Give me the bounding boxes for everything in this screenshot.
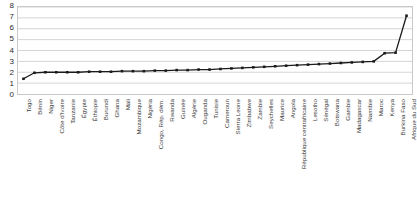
x-axis-tick-label: Maurice xyxy=(278,97,285,198)
x-axis-tick-label: Botswana xyxy=(333,97,340,198)
y-axis-tick-label: 7 xyxy=(10,13,14,21)
data-point-marker xyxy=(33,72,36,75)
data-point-marker xyxy=(208,68,211,71)
x-axis-tick-label: Côte d'Ivoire xyxy=(58,97,65,198)
x-axis-tick-label: Maroc xyxy=(377,97,384,198)
data-point-marker xyxy=(351,61,354,64)
x-axis-tick-label: Kenya xyxy=(388,97,395,198)
data-series-line xyxy=(18,7,412,94)
data-point-marker xyxy=(340,62,343,65)
x-axis-tick-label: Congo, Rép. dém. xyxy=(157,97,164,198)
x-axis-tick-label: Angola xyxy=(289,97,296,198)
data-point-marker xyxy=(175,69,178,72)
x-axis-tick-label: Zambie xyxy=(256,97,263,198)
y-axis: 012345678 xyxy=(0,0,17,101)
data-point-marker xyxy=(197,68,200,71)
x-axis-tick-label: Lesotho xyxy=(311,97,318,198)
data-point-marker xyxy=(99,70,102,73)
x-axis-tick-label: Burkina Faso xyxy=(399,97,406,198)
x-axis-tick-label: Bénin xyxy=(36,97,43,198)
data-point-marker xyxy=(329,62,332,65)
data-point-marker xyxy=(252,66,255,69)
x-axis-tick-label: Sierra Leone xyxy=(234,97,241,198)
plot-area xyxy=(17,6,413,95)
x-axis-tick-label: Afrique du Sud xyxy=(410,97,417,198)
x-axis-tick-label: Rwanda xyxy=(168,97,175,198)
data-point-marker xyxy=(307,63,310,66)
data-point-marker xyxy=(274,65,277,68)
data-point-marker xyxy=(318,63,321,66)
x-axis-tick-label: Guinée xyxy=(179,97,186,198)
x-axis-tick-label: Nigéria xyxy=(146,97,153,198)
data-point-marker xyxy=(285,64,288,67)
data-point-marker xyxy=(383,52,386,55)
x-axis-tick-label: Tanzanie xyxy=(69,97,76,198)
x-axis-tick-label: Madagascar xyxy=(355,97,362,198)
y-axis-tick-label: 4 xyxy=(10,47,14,55)
data-point-marker xyxy=(405,14,408,17)
x-axis-tick-label: Mali xyxy=(124,97,131,198)
data-point-marker xyxy=(241,67,244,70)
data-point-marker xyxy=(121,70,124,73)
y-axis-tick-label: 5 xyxy=(10,35,14,43)
x-axis-tick-label: Zimbabwe xyxy=(245,97,252,198)
data-point-marker xyxy=(66,71,69,74)
x-axis-tick-label: Égypte xyxy=(80,97,87,198)
data-point-marker xyxy=(361,61,364,64)
data-point-marker xyxy=(88,70,91,73)
y-axis-tick-label: 2 xyxy=(10,69,14,77)
data-point-marker xyxy=(44,71,47,74)
data-point-marker xyxy=(230,67,233,70)
x-axis: TogoBéninNigerCôte d'IvoireTanzanieÉgypt… xyxy=(17,97,413,198)
data-point-marker xyxy=(132,70,135,73)
x-axis-tick-label: Algérie xyxy=(190,97,197,198)
data-point-marker xyxy=(186,69,189,72)
x-axis-tick-label: Seychelles xyxy=(267,97,274,198)
x-axis-tick-label: Mozambique xyxy=(135,97,142,198)
data-point-marker xyxy=(77,71,80,74)
data-point-marker xyxy=(110,70,113,73)
data-point-marker xyxy=(296,64,299,67)
x-axis-tick-label: Burundi xyxy=(102,97,109,198)
x-axis-tick-label: Tunisie xyxy=(212,97,219,198)
x-axis-tick-label: République centrafricaine xyxy=(300,97,307,198)
x-axis-tick-label: Ghana xyxy=(113,97,120,198)
y-axis-tick-label: 3 xyxy=(10,58,14,66)
y-axis-tick-label: 8 xyxy=(10,2,14,10)
x-axis-tick-label: Ouganda xyxy=(201,97,208,198)
data-point-marker xyxy=(394,51,397,54)
data-point-marker xyxy=(372,60,375,63)
x-axis-tick-label: Niger xyxy=(47,97,54,198)
y-axis-tick-label: 0 xyxy=(10,91,14,99)
data-point-marker xyxy=(55,71,58,74)
data-point-marker xyxy=(263,66,266,69)
series-path xyxy=(23,16,406,79)
y-axis-tick-label: 1 xyxy=(10,80,14,88)
x-axis-tick-label: Togo xyxy=(25,97,32,198)
data-point-marker xyxy=(154,69,157,72)
x-axis-tick-label: Cameroun xyxy=(223,97,230,198)
data-point-marker xyxy=(143,70,146,73)
x-axis-tick-label: Gambie xyxy=(344,97,351,198)
x-axis-tick-label: Namibie xyxy=(366,97,373,198)
x-axis-tick-label: Sénégal xyxy=(322,97,329,198)
x-axis-tick-label: Éthiopie xyxy=(91,97,98,198)
y-axis-tick-label: 6 xyxy=(10,24,14,32)
data-point-marker xyxy=(22,78,25,81)
data-point-marker xyxy=(164,69,167,72)
data-point-marker xyxy=(219,68,222,71)
